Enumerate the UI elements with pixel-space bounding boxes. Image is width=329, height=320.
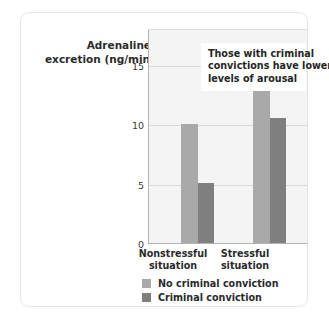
annotation-callout: Those with criminal convictions have low… xyxy=(201,43,306,91)
y-tick-label-10: 10 xyxy=(132,120,144,131)
bar-stressful-criminal-conviction xyxy=(270,118,286,244)
figure-card: Adrenaline excretion (ng/min.) 15 10 5 0… xyxy=(20,12,308,307)
legend-label-no-criminal-conviction: No criminal conviction xyxy=(158,278,279,289)
x-axis-line xyxy=(148,243,307,244)
bar-nonstressful-criminal-conviction xyxy=(198,183,214,243)
gridline-0: 0 xyxy=(148,244,307,245)
y-tick-label-5: 5 xyxy=(138,180,144,191)
plot-area: 15 10 5 0 Those with criminal conviction… xyxy=(148,29,307,244)
legend: No criminal conviction Criminal convicti… xyxy=(142,276,279,304)
x-tick-label-stressful: Stressful situation xyxy=(199,248,291,271)
legend-swatch-criminal-conviction xyxy=(142,293,151,302)
legend-item-criminal-conviction: Criminal conviction xyxy=(142,290,279,304)
y-axis-line xyxy=(148,30,149,244)
legend-label-criminal-conviction: Criminal conviction xyxy=(158,292,262,303)
annotation-line-1: Those with criminal xyxy=(208,48,300,60)
legend-swatch-no-criminal-conviction xyxy=(142,279,151,288)
legend-item-no-criminal-conviction: No criminal conviction xyxy=(142,276,279,290)
bar-nonstressful-no-criminal-conviction xyxy=(181,124,198,244)
y-tick-label-15: 15 xyxy=(132,60,144,71)
x-tick-stressful-line-1: Stressful xyxy=(199,248,291,260)
annotation-line-3: levels of arousal xyxy=(208,73,300,85)
x-tick-stressful-line-2: situation xyxy=(199,260,291,272)
y-axis-title-line-1: Adrenaline xyxy=(45,39,151,53)
annotation-line-2: convictions have lower xyxy=(208,60,300,72)
